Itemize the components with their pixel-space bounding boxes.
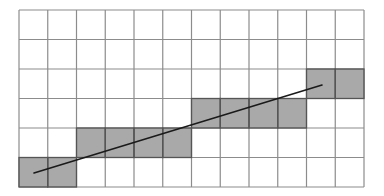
shaded-pixel-cell (278, 99, 307, 129)
shaded-pixel-cell (134, 128, 163, 158)
shaded-pixel-cell (335, 69, 364, 99)
shaded-pixel-cell (19, 158, 48, 188)
shaded-pixel-cell (220, 99, 249, 129)
shaded-pixel-cell (105, 128, 134, 158)
line-rasterization-diagram (0, 0, 384, 196)
shaded-pixel-cell (307, 69, 336, 99)
